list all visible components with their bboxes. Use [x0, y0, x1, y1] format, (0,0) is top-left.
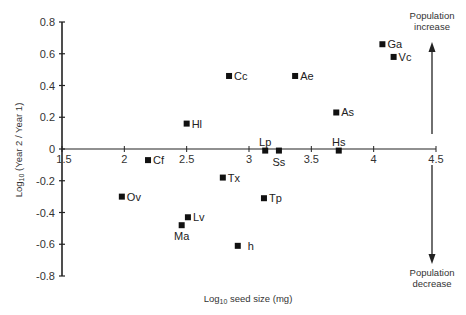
- x-tick-label: 3: [246, 153, 252, 165]
- data-point: Tx: [220, 172, 241, 184]
- point-label: Lp: [259, 136, 271, 148]
- y-axis-label: Log10 (Year 2 / Year 1): [13, 103, 25, 198]
- point-label: Hl: [192, 118, 202, 130]
- y-tick-label: -0.6: [36, 238, 55, 250]
- data-point: As: [333, 106, 354, 118]
- point-marker: [226, 73, 232, 79]
- point-label: Ov: [127, 191, 142, 203]
- arrowhead-up-icon: [429, 42, 436, 52]
- point-marker: [262, 148, 268, 154]
- point-marker: [235, 243, 241, 249]
- point-marker: [379, 41, 385, 47]
- data-point: Cc: [226, 70, 248, 82]
- point-label: h: [248, 240, 254, 252]
- point-label: Cc: [234, 70, 248, 82]
- x-tick-label: 3.5: [304, 153, 319, 165]
- point-label: Hs: [332, 136, 346, 148]
- data-point: Ov: [119, 191, 142, 203]
- data-point: Lv: [185, 211, 205, 223]
- point-label: Vc: [399, 51, 412, 63]
- data-point: h: [235, 240, 254, 252]
- point-label: Tp: [269, 192, 282, 204]
- point-marker: [145, 157, 151, 163]
- point-marker: [220, 175, 226, 181]
- point-marker: [292, 73, 298, 79]
- point-label: Lv: [193, 211, 205, 223]
- x-tick-label: 4.5: [428, 153, 443, 165]
- data-point: Ma: [174, 222, 190, 242]
- data-point: Tp: [261, 192, 282, 204]
- data-point: Ae: [292, 70, 313, 82]
- point-label: Ga: [387, 38, 403, 50]
- data-point: Cf: [145, 154, 165, 166]
- point-label: As: [341, 106, 354, 118]
- point-label: Ma: [174, 230, 190, 242]
- y-tick-label: 0.4: [40, 80, 55, 92]
- point-marker: [119, 194, 125, 200]
- x-tick-label: 2.5: [179, 153, 194, 165]
- point-marker: [179, 222, 185, 228]
- annotation-increase-line2: increase: [414, 21, 450, 32]
- scatter-chart: 0.80.60.40.20-0.2-0.4-0.6-0.81.522.533.5…: [0, 0, 466, 315]
- data-point: Hs: [332, 136, 346, 154]
- point-label: Ss: [272, 156, 285, 168]
- data-point: Ss: [272, 148, 285, 168]
- y-tick-label: 0.2: [40, 111, 55, 123]
- point-marker: [184, 121, 190, 127]
- data-point: Hl: [184, 118, 202, 130]
- point-marker: [261, 195, 267, 201]
- point-label: Ae: [300, 70, 313, 82]
- annotation-increase-line1: Population: [410, 10, 455, 21]
- data-point: Ga: [379, 38, 403, 50]
- annotation-decrease-line1: Population: [410, 267, 455, 278]
- data-points: GaVcCcAeAsHlLpSsHsCfTxOvTpLvMah: [119, 38, 412, 252]
- point-marker: [276, 148, 282, 154]
- data-point: Vc: [391, 51, 412, 63]
- annotation-decrease-line2: decrease: [412, 278, 451, 289]
- point-marker: [333, 109, 339, 115]
- arrowhead-down-icon: [429, 254, 436, 264]
- point-marker: [336, 148, 342, 154]
- x-axis-label: Log10 seed size (mg): [204, 293, 293, 305]
- x-tick-label: 2: [121, 153, 127, 165]
- y-tick-label: 0.6: [40, 48, 55, 60]
- x-tick-label: 1.5: [56, 153, 71, 165]
- point-label: Tx: [228, 172, 241, 184]
- y-tick-label: -0.8: [36, 270, 55, 282]
- y-tick-label: -0.2: [36, 175, 55, 187]
- data-point: Lp: [259, 136, 271, 154]
- point-label: Cf: [153, 154, 165, 166]
- y-tick-label: -0.4: [36, 207, 55, 219]
- y-tick-label: 0.8: [40, 16, 55, 28]
- point-marker: [391, 54, 397, 60]
- point-marker: [185, 214, 191, 220]
- y-tick-label: 0: [49, 143, 55, 155]
- x-tick-label: 4: [371, 153, 377, 165]
